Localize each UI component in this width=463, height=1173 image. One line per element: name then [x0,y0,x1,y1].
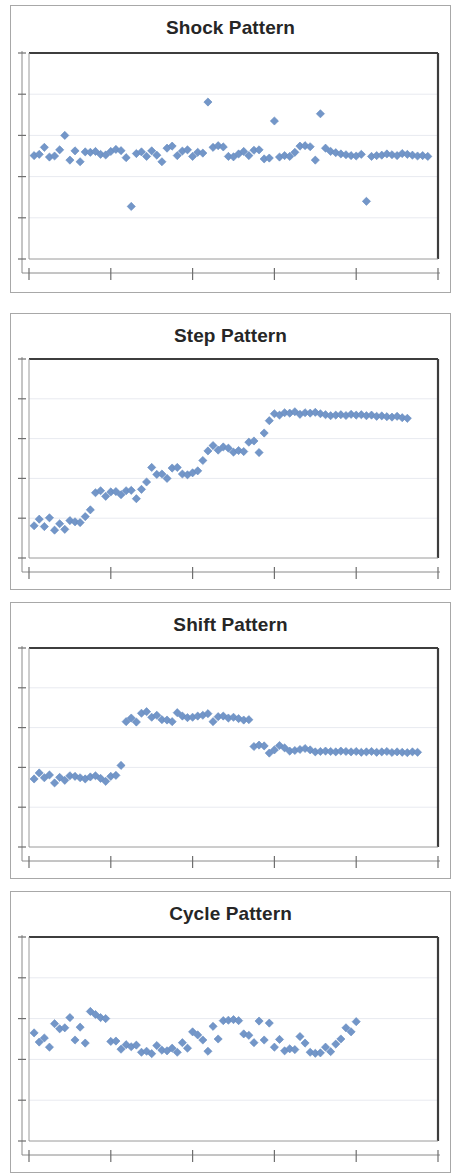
scatter-chart-icon-step [11,351,450,588]
chart-panel-shock: Shock Pattern [10,5,451,293]
chart-title-shift: Shift Pattern [11,603,450,640]
scatter-chart-icon-shift [11,640,450,877]
chart-title-shock: Shock Pattern [11,6,450,43]
chart-title-cycle: Cycle Pattern [11,892,450,929]
plot-area-shock [11,43,450,291]
scatter-chart-icon-shock [11,43,450,291]
scatter-chart-icon-cycle [11,929,450,1171]
plot-area-shift [11,640,450,877]
chart-panel-cycle: Cycle Pattern [10,891,451,1173]
plot-area-cycle [11,929,450,1171]
chart-panel-shift: Shift Pattern [10,602,451,879]
chart-panel-step: Step Pattern [10,313,451,590]
plot-area-step [11,351,450,588]
chart-title-step: Step Pattern [11,314,450,351]
figure-page: Shock Pattern Step Pattern Shift Pattern… [0,0,463,1173]
